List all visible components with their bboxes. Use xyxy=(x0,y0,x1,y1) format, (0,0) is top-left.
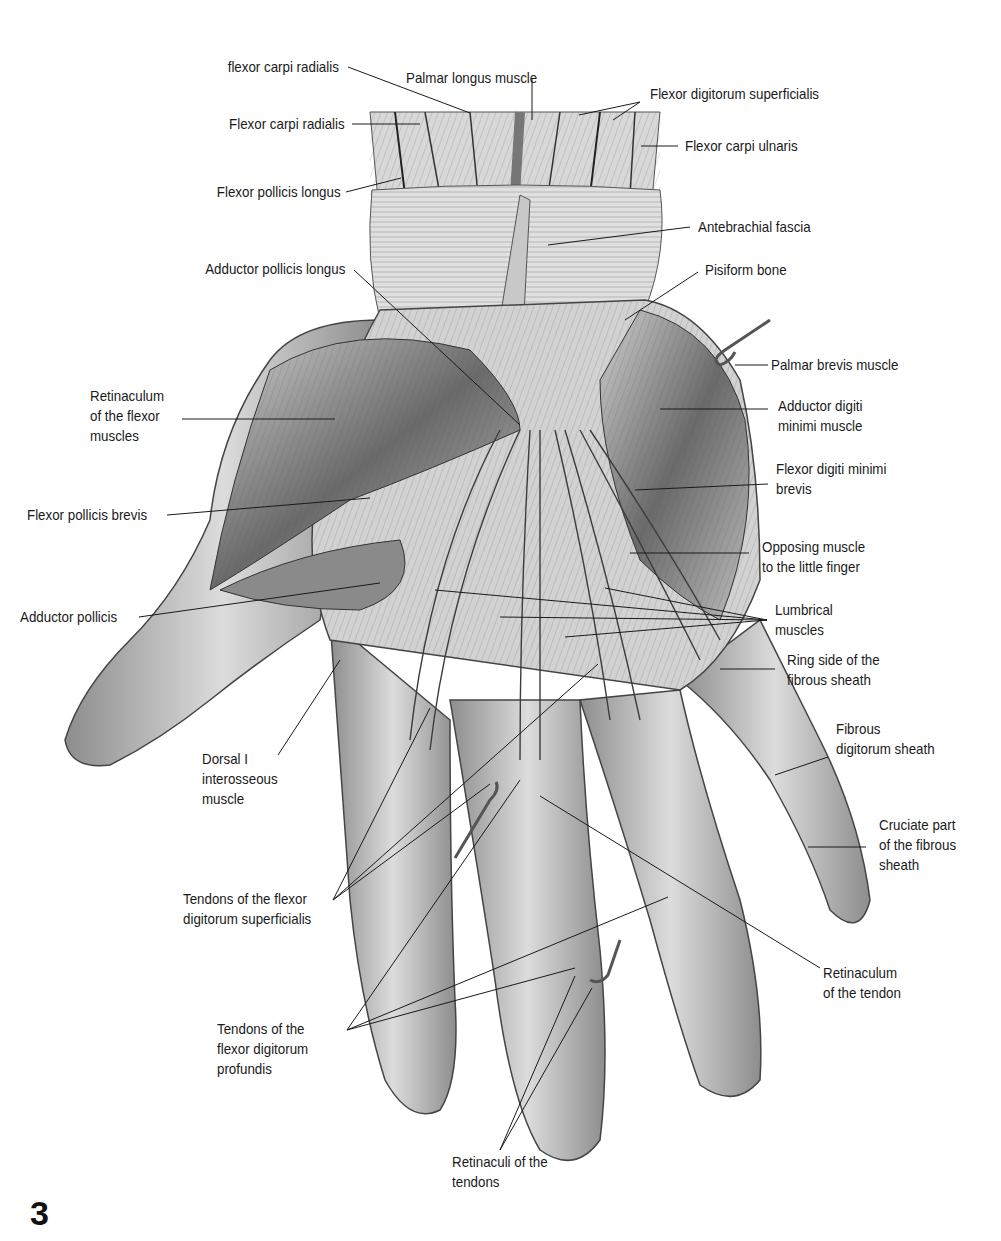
label-flexor-digiti-minimi-brevis: Flexor digiti minimi brevis xyxy=(776,459,886,499)
label-retinaculum-flexor: Retinaculum of the flexor muscles xyxy=(90,386,164,446)
label-flexor-pollicis-brevis: Flexor pollicis brevis xyxy=(27,505,147,525)
label-tendons-fdp: Tendons of the flexor digitorum profundi… xyxy=(217,1019,308,1079)
label-retinaculi-tendons: Retinaculi of the tendons xyxy=(452,1152,548,1192)
label-adductor-digiti-minimi: Adductor digiti minimi muscle xyxy=(778,396,863,436)
label-flexor-carpi-ulnaris: Flexor carpi ulnaris xyxy=(685,136,798,156)
label-palmar-longus: Palmar longus muscle xyxy=(406,68,537,88)
label-flexor-carpi-radialis: Flexor carpi radialis xyxy=(229,114,345,134)
label-antebrachial-fascia: Antebrachial fascia xyxy=(698,217,811,237)
label-adductor-pollicis-longus: Adductor pollicis longus xyxy=(205,259,345,279)
label-retinaculum-tendon: Retinaculum of the tendon xyxy=(823,963,901,1003)
label-flexor-pollicis-longus: Flexor pollicis longus xyxy=(217,182,341,202)
label-flexor-carpi-radialis-top: flexor carpi radialis xyxy=(228,57,339,77)
label-opposing-muscle: Opposing muscle to the little finger xyxy=(762,537,865,577)
label-dorsal-interosseous: Dorsal I interosseous muscle xyxy=(202,749,278,809)
figure-number: 3 xyxy=(30,1196,49,1230)
label-cruciate-part: Cruciate part of the fibrous sheath xyxy=(879,815,956,875)
label-adductor-pollicis: Adductor pollicis xyxy=(20,607,117,627)
label-tendons-fds: Tendons of the flexor digitorum superfic… xyxy=(183,889,311,929)
label-flexor-digitorum-superficialis: Flexor digitorum superficialis xyxy=(650,84,819,104)
label-lumbrical-muscles: Lumbrical muscles xyxy=(775,600,833,640)
hand-illustration xyxy=(0,0,1001,1241)
label-palmar-brevis: Palmar brevis muscle xyxy=(771,355,899,375)
label-ring-side-sheath: Ring side of the fibrous sheath xyxy=(787,650,880,690)
label-pisiform-bone: Pisiform bone xyxy=(705,260,787,280)
label-fibrous-digitorum-sheath: Fibrous digitorum sheath xyxy=(836,719,935,759)
